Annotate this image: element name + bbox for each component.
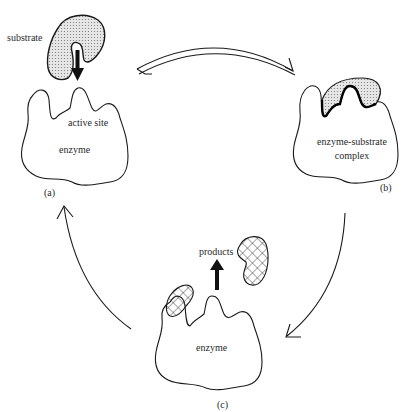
enzyme-shape-b — [293, 86, 398, 183]
forward-arrow-icon — [286, 213, 345, 337]
caption-a: (a) — [44, 188, 55, 198]
enzyme-label-c: enzyme — [196, 343, 227, 353]
complex-label-line1: enzyme-substrate — [306, 137, 398, 147]
release-arrow-icon — [210, 259, 224, 290]
caption-b: (b) — [380, 183, 392, 193]
products-label: products — [199, 247, 233, 257]
caption-c: (c) — [217, 400, 228, 410]
return-arrow-icon — [57, 206, 131, 329]
active-site-label: active site — [68, 118, 108, 128]
enzyme-label-a: enzyme — [59, 145, 90, 155]
enzyme-shape-a — [22, 88, 128, 185]
product-shape-right — [238, 237, 269, 285]
substrate-label: substrate — [7, 33, 43, 43]
complex-label-line2: complex — [306, 151, 398, 161]
enzyme-cycle-diagram: substrate active site enzyme (a) enzyme-… — [0, 0, 412, 412]
reversible-arrow-icon — [137, 48, 295, 75]
